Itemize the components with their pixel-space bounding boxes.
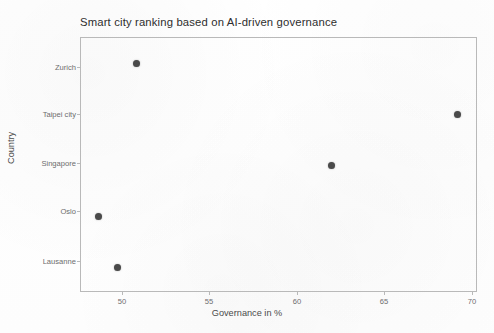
xtick-label-65: 65 bbox=[364, 297, 404, 306]
xtick-label-60: 60 bbox=[277, 297, 317, 306]
ytick-mark-lausanne bbox=[77, 261, 80, 262]
data-point-singapore[interactable] bbox=[328, 162, 335, 169]
chart-figure: Smart city ranking based on AI-driven go… bbox=[0, 0, 494, 333]
y-axis-title: Country bbox=[6, 132, 16, 164]
data-point-oslo[interactable] bbox=[95, 213, 102, 220]
x-axis-title: Governance in % bbox=[0, 308, 494, 318]
ytick-label-taipei-city: Taipei city bbox=[0, 110, 76, 119]
xtick-mark-65 bbox=[384, 292, 385, 295]
xtick-mark-55 bbox=[209, 292, 210, 295]
ytick-label-zurich: Zurich bbox=[0, 63, 76, 72]
xtick-mark-50 bbox=[122, 292, 123, 295]
chart-title: Smart city ranking based on AI-driven go… bbox=[80, 16, 337, 28]
data-point-lausanne[interactable] bbox=[114, 264, 121, 271]
xtick-mark-70 bbox=[472, 292, 473, 295]
xtick-label-50: 50 bbox=[102, 297, 142, 306]
ytick-mark-zurich bbox=[77, 67, 80, 68]
data-point-zurich[interactable] bbox=[133, 60, 140, 67]
data-point-taipei-city[interactable] bbox=[454, 111, 461, 118]
xtick-label-70: 70 bbox=[452, 297, 492, 306]
ytick-label-lausanne: Lausanne bbox=[0, 257, 76, 266]
ytick-mark-taipei-city bbox=[77, 114, 80, 115]
xtick-label-55: 55 bbox=[189, 297, 229, 306]
plot-area bbox=[80, 37, 477, 292]
ytick-mark-oslo bbox=[77, 211, 80, 212]
ytick-label-oslo: Oslo bbox=[0, 207, 76, 216]
xtick-mark-60 bbox=[297, 292, 298, 295]
ytick-mark-singapore bbox=[77, 163, 80, 164]
